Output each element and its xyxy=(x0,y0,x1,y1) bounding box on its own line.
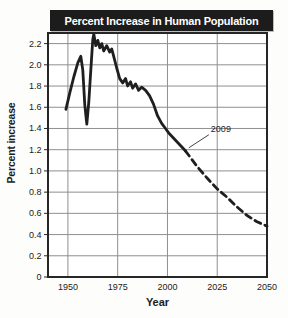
y-tick-label: 0.6 xyxy=(29,208,42,218)
y-tick-label: 0.4 xyxy=(29,230,42,240)
y-tick-label: 2.2 xyxy=(29,39,42,49)
y-tick-label: 1.2 xyxy=(29,145,42,155)
plot-area: 00.20.40.60.81.01.21.41.61.82.02.2195019… xyxy=(0,0,288,318)
x-tick-label: 2050 xyxy=(257,282,277,292)
annotation-label: 2009 xyxy=(211,124,231,134)
y-tick-label: 1.8 xyxy=(29,81,42,91)
x-tick-label: 2000 xyxy=(157,282,177,292)
population-growth-figure: Percent Increase in Human Population Per… xyxy=(0,0,288,318)
x-tick-label: 1975 xyxy=(108,282,128,292)
y-tick-label: 1.6 xyxy=(29,102,42,112)
y-tick-label: 1.4 xyxy=(29,123,42,133)
x-tick-label: 2025 xyxy=(207,282,227,292)
y-tick-label: 0 xyxy=(36,272,41,282)
plot-background xyxy=(48,33,267,277)
y-tick-label: 0.2 xyxy=(29,251,42,261)
x-axis-title: Year xyxy=(48,296,267,308)
y-tick-label: 0.8 xyxy=(29,187,42,197)
x-tick-label: 1950 xyxy=(58,282,78,292)
y-tick-label: 2.0 xyxy=(29,60,42,70)
y-tick-label: 1.0 xyxy=(29,166,42,176)
